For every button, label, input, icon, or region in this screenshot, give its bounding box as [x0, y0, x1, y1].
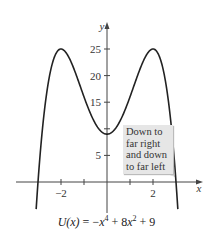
- caption-fn: U(x): [58, 215, 80, 229]
- y-tick-label-20: 20: [90, 70, 102, 82]
- x-tick-label-neg2: −2: [55, 187, 67, 199]
- caption-eq: = −: [80, 215, 100, 229]
- callout-line: far right: [126, 138, 171, 150]
- callout-line: and down: [126, 149, 171, 161]
- x-tick-label-2: 2: [150, 187, 156, 199]
- y-axis-label: y: [99, 20, 105, 32]
- function-caption: U(x) = −x4 + 8x2 + 9: [0, 214, 213, 230]
- x-axis-label: x: [196, 182, 202, 194]
- callout-box: Down to far right and down to far left: [123, 125, 173, 174]
- caption-mid: + 8: [108, 215, 127, 229]
- y-tick-label-15: 15: [90, 96, 102, 108]
- caption-end: + 9: [137, 215, 156, 229]
- y-tick-label-25: 25: [90, 43, 102, 55]
- y-axis-arrow-icon: [105, 22, 110, 29]
- callout-line: Down to: [126, 126, 171, 138]
- y-tick-label-5: 5: [96, 149, 102, 161]
- chart-canvas: −2 2 25 20 15 5 x y: [0, 0, 213, 234]
- callout-line: to far left: [126, 161, 171, 173]
